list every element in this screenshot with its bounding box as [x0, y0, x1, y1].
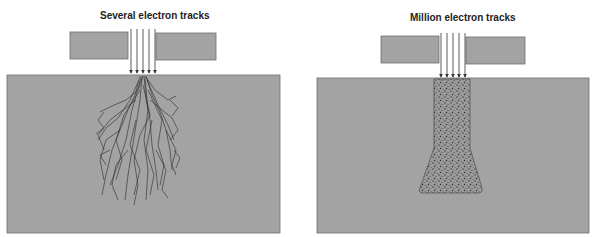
- electron-beam-arrows: [441, 33, 465, 77]
- aperture-right-plate: [466, 37, 525, 64]
- aperture-left-plate: [381, 36, 439, 63]
- aperture-right-plate: [156, 33, 216, 60]
- target-sample-left: [7, 75, 280, 233]
- electron-beam-arrows: [131, 29, 155, 73]
- panel-right: [317, 33, 589, 233]
- panel-left: [7, 29, 280, 233]
- diagram-canvas: [0, 0, 593, 237]
- aperture-left-plate: [70, 32, 128, 59]
